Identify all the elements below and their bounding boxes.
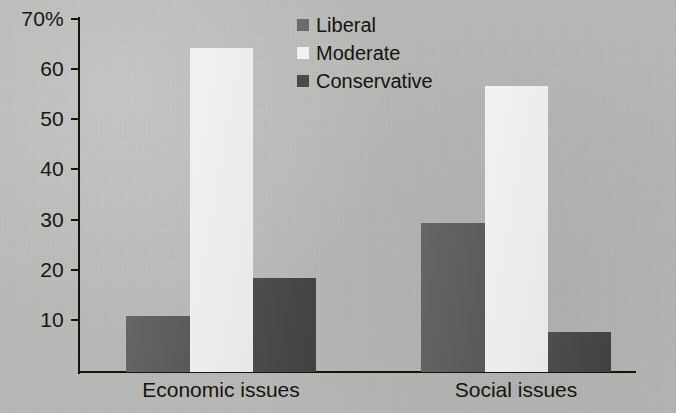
legend-swatch-icon-moderate bbox=[297, 47, 309, 59]
bar-social-moderate bbox=[485, 86, 548, 372]
y-tick-label-70: 70% bbox=[21, 8, 64, 29]
y-tick-30 bbox=[71, 219, 79, 221]
y-tick-20 bbox=[71, 269, 79, 271]
bar-economic-conservative bbox=[253, 278, 316, 372]
y-tick-label-30: 30 bbox=[40, 209, 64, 230]
y-tick-40 bbox=[71, 168, 79, 170]
y-tick-50 bbox=[71, 118, 79, 120]
chart-legend: Liberal Moderate Conservative bbox=[297, 14, 433, 92]
legend-item-moderate: Moderate bbox=[297, 42, 433, 64]
x-label-economic-issues: Economic issues bbox=[126, 378, 316, 402]
chart-figure: 70% 60 50 40 30 20 10 Economic issues So… bbox=[0, 0, 676, 413]
legend-swatch-icon-liberal bbox=[297, 19, 309, 31]
y-tick-label-40: 40 bbox=[40, 158, 64, 179]
legend-item-liberal: Liberal bbox=[297, 14, 433, 36]
legend-swatch-icon-conservative bbox=[297, 75, 309, 87]
y-tick-70 bbox=[71, 18, 79, 20]
legend-label-moderate: Moderate bbox=[316, 43, 401, 63]
legend-label-liberal: Liberal bbox=[316, 15, 376, 35]
y-tick-label-50: 50 bbox=[40, 108, 64, 129]
legend-label-conservative: Conservative bbox=[316, 71, 433, 91]
y-tick-60 bbox=[71, 68, 79, 70]
bar-social-liberal bbox=[421, 223, 485, 372]
y-tick-label-60: 60 bbox=[40, 58, 64, 79]
bar-social-conservative bbox=[548, 332, 611, 372]
y-tick-label-20: 20 bbox=[40, 259, 64, 280]
x-label-social-issues: Social issues bbox=[421, 378, 611, 402]
y-tick-label-10: 10 bbox=[40, 309, 64, 330]
y-tick-10 bbox=[71, 319, 79, 321]
bar-economic-moderate bbox=[190, 48, 253, 372]
bar-economic-liberal bbox=[126, 316, 190, 372]
legend-item-conservative: Conservative bbox=[297, 70, 433, 92]
